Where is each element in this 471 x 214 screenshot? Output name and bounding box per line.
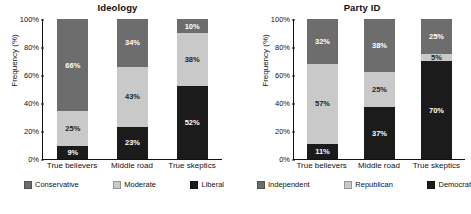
- legend-swatch-icon: [113, 181, 121, 189]
- bar-segment[interactable]: 38%: [177, 33, 208, 86]
- bar-segment[interactable]: 34%: [117, 19, 148, 67]
- bar-segment[interactable]: 25%: [364, 72, 395, 107]
- y-axis-label: Frequency (%): [10, 1, 19, 121]
- bar-segment[interactable]: 70%: [421, 61, 452, 159]
- x-tick: Middle road: [102, 161, 162, 170]
- legend-item-independent[interactable]: Independent: [257, 180, 310, 189]
- legend: Independent Republican Democrat: [257, 180, 471, 189]
- bar-segment[interactable]: 52%: [177, 86, 208, 159]
- legend-label: Republican: [355, 180, 393, 189]
- bar-segment[interactable]: 37%: [364, 107, 395, 159]
- legend-item-conservative[interactable]: Conservative: [24, 180, 79, 189]
- x-tick: True believers: [293, 161, 350, 170]
- legend-swatch-icon: [190, 181, 198, 189]
- bar-group: 66% 25% 9% 34% 43% 23% 10% 38% 52%: [43, 19, 222, 159]
- x-tick: True skeptics: [162, 161, 222, 170]
- bar-segment[interactable]: 10%: [177, 19, 208, 33]
- bar-group: 32% 57% 11% 38% 25% 37% 25% 5% 70%: [294, 19, 465, 159]
- legend-swatch-icon: [24, 181, 32, 189]
- legend-item-moderate[interactable]: Moderate: [113, 180, 156, 189]
- stacked-bar[interactable]: 66% 25% 9%: [57, 19, 88, 159]
- bar-segment[interactable]: 11%: [307, 144, 338, 159]
- bar-segment[interactable]: 5%: [421, 54, 452, 61]
- x-axis-ticks: True believers Middle road True skeptics: [293, 161, 465, 170]
- panel-title: Ideology: [0, 2, 235, 13]
- legend: Conservative Moderate Liberal: [24, 180, 224, 189]
- y-tick: 80%: [275, 43, 294, 52]
- stacked-bar-figure: Ideology Frequency (%) 100% 80% 60% 40% …: [0, 0, 471, 214]
- legend-label: Conservative: [35, 180, 79, 189]
- x-axis-ticks: True believers Middle road True skeptics: [42, 161, 222, 170]
- x-tick: True believers: [42, 161, 102, 170]
- y-tick: 60%: [24, 71, 43, 80]
- bar-segment[interactable]: 66%: [57, 19, 88, 111]
- bar-segment[interactable]: 25%: [57, 111, 88, 146]
- y-tick: 100%: [271, 15, 294, 24]
- x-tick: True skeptics: [408, 161, 465, 170]
- chart-panel-ideology: Ideology Frequency (%) 100% 80% 60% 40% …: [0, 0, 235, 214]
- bar-segment[interactable]: 57%: [307, 64, 338, 144]
- y-tick: 60%: [275, 71, 294, 80]
- legend-swatch-icon: [344, 181, 352, 189]
- panel-title: Party ID: [235, 2, 471, 13]
- y-tick: 20%: [275, 127, 294, 136]
- y-tick: 0%: [279, 155, 294, 164]
- legend-label: Democrat: [438, 180, 471, 189]
- legend-swatch-icon: [427, 181, 435, 189]
- bar-segment[interactable]: 25%: [421, 19, 452, 54]
- y-tick: 40%: [24, 99, 43, 108]
- bar-segment[interactable]: 23%: [117, 127, 148, 159]
- y-tick: 80%: [24, 43, 43, 52]
- y-tick: 100%: [20, 15, 43, 24]
- legend-label: Liberal: [201, 180, 224, 189]
- stacked-bar[interactable]: 25% 5% 70%: [421, 19, 452, 159]
- stacked-bar[interactable]: 34% 43% 23%: [117, 19, 148, 159]
- plot-area: 100% 80% 60% 40% 20% 0% 32% 57% 11% 38% …: [293, 19, 465, 160]
- y-tick: 40%: [275, 99, 294, 108]
- chart-panel-party-id: Party ID Frequency (%) 100% 80% 60% 40% …: [235, 0, 471, 214]
- legend-item-liberal[interactable]: Liberal: [190, 180, 224, 189]
- plot-area: 100% 80% 60% 40% 20% 0% 66% 25% 9% 34% 4…: [42, 19, 222, 160]
- bar-segment[interactable]: 9%: [57, 146, 88, 159]
- y-tick: 0%: [28, 155, 43, 164]
- legend-item-democrat[interactable]: Democrat: [427, 180, 471, 189]
- legend-label: Independent: [268, 180, 310, 189]
- bar-segment[interactable]: 38%: [364, 19, 395, 72]
- bar-segment[interactable]: 32%: [307, 19, 338, 64]
- y-tick: 20%: [24, 127, 43, 136]
- legend-label: Moderate: [124, 180, 156, 189]
- stacked-bar[interactable]: 10% 38% 52%: [177, 19, 208, 159]
- bar-segment[interactable]: 43%: [117, 67, 148, 127]
- x-tick: Middle road: [350, 161, 407, 170]
- y-axis-label: Frequency (%): [261, 1, 270, 121]
- legend-item-republican[interactable]: Republican: [344, 180, 393, 189]
- stacked-bar[interactable]: 32% 57% 11%: [307, 19, 338, 159]
- stacked-bar[interactable]: 38% 25% 37%: [364, 19, 395, 159]
- legend-swatch-icon: [257, 181, 265, 189]
